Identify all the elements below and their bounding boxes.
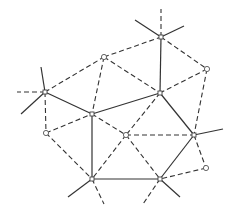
dashed-edge-E-H <box>126 93 160 135</box>
graph-diagram <box>0 0 238 213</box>
solid-edge-F-E <box>92 93 160 114</box>
solid-edges <box>21 20 223 197</box>
solid-ray-I <box>194 129 223 135</box>
circle-node-icon <box>203 165 208 170</box>
circle-node-icon <box>204 66 209 71</box>
solid-ray-J <box>68 179 92 197</box>
solid-ray-K <box>160 179 180 197</box>
vertex-node-icon <box>90 177 94 181</box>
vertex-node-icon <box>192 133 196 137</box>
vertex-node-icon <box>43 90 47 94</box>
solid-ray-C <box>21 92 45 114</box>
circle-node-icon <box>43 130 48 135</box>
dashed-edge-D-E <box>160 69 207 93</box>
vertex-node-icon <box>158 177 162 181</box>
dashed-edge-D-I <box>194 69 207 135</box>
dashed-edge-C-B <box>45 57 104 92</box>
circle-node-icon <box>101 54 106 59</box>
dashed-ray-J <box>92 179 104 204</box>
dashed-edge-B-A <box>104 37 161 57</box>
dashed-edges <box>17 9 207 204</box>
dashed-edge-H-K <box>126 135 160 179</box>
dashed-edge-C-G <box>45 92 46 133</box>
vertex-node-icon <box>159 35 163 39</box>
dashed-edge-B-E <box>104 57 160 93</box>
dashed-edge-B-F <box>92 57 104 114</box>
vertex-node-icon <box>158 91 162 95</box>
dashed-edge-F-H <box>92 114 126 135</box>
graph-nodes <box>43 35 210 181</box>
circle-node-icon <box>123 132 128 137</box>
solid-ray-C <box>41 67 45 92</box>
dashed-edge-G-F <box>46 114 92 133</box>
vertex-node-icon <box>90 112 94 116</box>
dashed-edge-G-J <box>46 133 92 179</box>
solid-edge-A-E <box>160 37 161 93</box>
dashed-edge-H-J <box>92 135 126 179</box>
solid-edge-E-I <box>160 93 194 135</box>
solid-ray-A <box>135 20 161 37</box>
solid-ray-A <box>161 26 184 37</box>
dashed-edge-A-D <box>161 37 207 69</box>
solid-edge-C-F <box>45 92 92 114</box>
dashed-ray-K <box>143 179 160 204</box>
dashed-edge-I-L <box>194 135 206 168</box>
